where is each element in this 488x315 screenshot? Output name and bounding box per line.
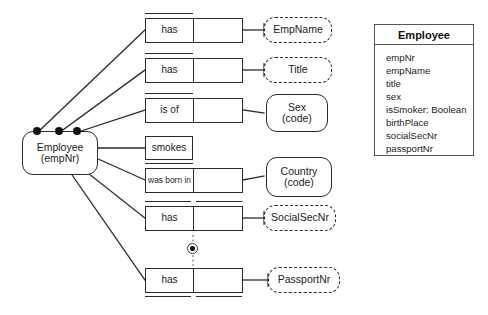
mandatory-role-dot [55,127,63,135]
mandatory-role-dot [33,127,41,135]
uml-attribute: empNr [386,51,473,64]
object-type-label: Title [288,64,307,76]
uml-attribute: isSmoker: Boolean [386,103,473,116]
fact-type-has-title[interactable]: has [145,58,243,83]
diagram-canvas: Employee (empNr) has has is of smokes wa… [0,0,488,315]
role-box-2 [194,19,242,42]
uniqueness-bar [145,13,193,14]
object-type-label: PassportNr [278,274,331,286]
object-type-socialsecnr[interactable]: SocialSecNr [264,205,336,231]
fact-type-is-of-sex[interactable]: is of [145,98,243,123]
uniqueness-bar [196,201,242,202]
object-type-country[interactable]: Country (code) [266,157,332,197]
exclusion-constraint-icon[interactable] [187,243,198,254]
role-box-2 [194,169,242,192]
role-box-1: has [146,207,194,230]
fact-type-was-born-in[interactable]: was born in [145,168,243,193]
role-box-1: smokes [146,137,192,159]
uml-attribute: sex [386,90,473,103]
object-type-title[interactable]: Title [264,57,332,83]
uniqueness-bar [145,53,193,54]
uml-class-title: Employee [375,25,473,45]
object-type-sex[interactable]: Sex (code) [266,94,328,132]
role-box-2 [194,59,242,82]
role-box-2 [194,269,242,292]
role-box-1: has [146,59,194,82]
uml-class-employee[interactable]: Employee empNr empName title sex isSmoke… [374,24,474,156]
role-box-1: has [146,19,194,42]
object-type-passportnr[interactable]: PassportNr [268,267,340,293]
object-type-employee[interactable]: Employee (empNr) [22,131,98,175]
mandatory-role-dot [73,127,81,135]
employee-reference: (empNr) [41,153,80,165]
fact-type-has-socialsecnr[interactable]: has [145,206,243,231]
uml-attribute-list: empNr empName title sex isSmoker: Boolea… [375,45,473,155]
fact-type-has-passportnr[interactable]: has [145,268,243,293]
uml-attribute: birthPlace [386,116,473,129]
uniqueness-bar [145,201,191,202]
object-type-label: EmpName [273,24,323,36]
uml-attribute: empName [386,64,473,77]
uniqueness-bar [145,296,191,297]
object-type-empname[interactable]: EmpName [264,17,332,43]
uniqueness-bar [145,93,193,94]
role-box-1: was born in [146,169,194,192]
uniqueness-bar [196,296,242,297]
role-box-1: has [146,269,194,292]
uml-attribute: title [386,77,473,90]
role-box-1: is of [146,99,194,122]
uml-attribute: socialSecNr [386,129,473,142]
fact-type-has-empname[interactable]: has [145,18,243,43]
role-box-2 [194,207,242,230]
object-type-sublabel: (code) [282,113,312,125]
fact-type-smokes[interactable]: smokes [145,136,193,160]
object-type-sublabel: (code) [284,177,314,189]
object-type-label: SocialSecNr [271,212,329,224]
uniqueness-bar [145,163,193,164]
role-box-2 [194,99,242,122]
uml-attribute: passportNr [386,142,473,155]
